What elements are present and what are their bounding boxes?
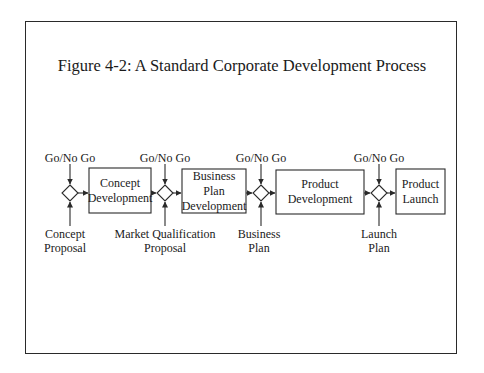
gate-3-bottom-label: Business Plan	[238, 227, 281, 255]
gate-2-top-label: Go/No Go	[140, 151, 190, 165]
gate-3-top-label: Go/No Go	[236, 151, 286, 165]
gate-4-top-label: Go/No Go	[354, 151, 404, 165]
gate-diamond-3	[253, 185, 269, 201]
gate-2-bottom-label: Market Qualification Proposal	[115, 227, 216, 255]
gate-diamond-1	[62, 185, 78, 201]
gate-4-bottom-label: Launch Plan	[361, 227, 397, 255]
gate-diamond-2	[157, 185, 173, 201]
gate-1-top-label: Go/No Go	[45, 151, 95, 165]
stage-1-label: Concept Development	[89, 168, 151, 213]
gate-diamond-4	[371, 185, 387, 201]
stage-3-label: Product Development	[276, 170, 364, 214]
stage-4-label: Product Launch	[396, 169, 445, 214]
gate-1-bottom-label: Concept Proposal	[44, 227, 86, 255]
stage-2-label: Business Plan Development	[182, 169, 246, 213]
